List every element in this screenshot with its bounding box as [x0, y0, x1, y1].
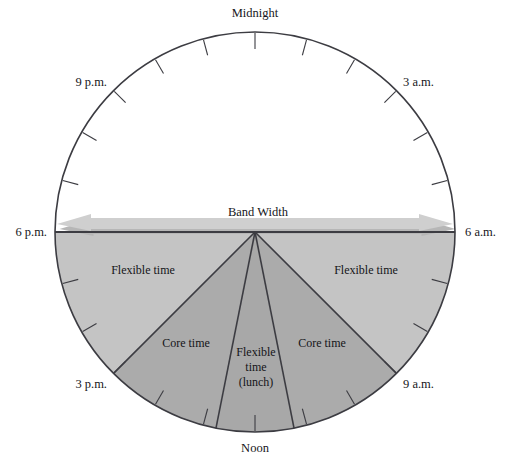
hour-tick — [156, 60, 164, 74]
hour-tick — [302, 40, 306, 55]
hour-label-three-pm: 3 p.m. — [75, 377, 107, 391]
sector-label-flexible-time-left: Flexible time — [111, 263, 175, 277]
hour-label-nine-am: 9 a.m. — [403, 377, 434, 391]
sector-label-flexible-time-right: Flexible time — [334, 263, 398, 277]
hour-tick — [114, 91, 125, 102]
band-width-label: Band Width — [228, 205, 289, 219]
hour-tick — [63, 181, 78, 185]
hour-tick — [432, 181, 447, 185]
hour-tick — [384, 91, 395, 102]
hour-label-six-pm: 6 p.m. — [15, 225, 47, 239]
hour-tick — [413, 133, 427, 141]
sector-label-core-time-right: Core time — [298, 336, 346, 350]
hour-label-nine-pm: 9 p.m. — [75, 75, 107, 89]
hour-tick — [204, 40, 208, 55]
hour-tick — [347, 60, 355, 74]
hour-label-three-am: 3 a.m. — [403, 75, 434, 89]
flextime-clock-diagram: Midnight3 a.m.6 a.m.9 a.m.Noon3 p.m.6 p.… — [0, 0, 512, 460]
sector-label-core-time-left: Core time — [162, 336, 210, 350]
hour-label-midnight: Midnight — [232, 6, 279, 20]
hour-label-six-am: 6 a.m. — [465, 225, 496, 239]
hour-tick — [83, 133, 97, 141]
hour-label-noon: Noon — [241, 441, 270, 455]
clock-face-svg: Midnight3 a.m.6 a.m.9 a.m.Noon3 p.m.6 p.… — [0, 0, 512, 460]
sector-layer — [55, 232, 455, 432]
